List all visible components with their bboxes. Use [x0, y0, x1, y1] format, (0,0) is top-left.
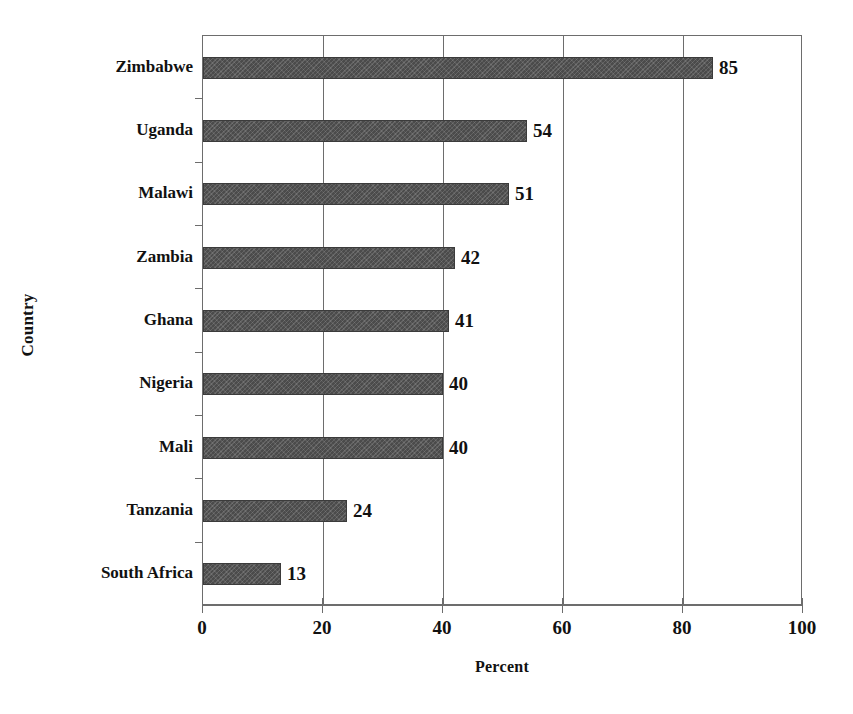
bar-value-label: 24 — [353, 500, 372, 522]
bar-zambia: 42 — [203, 247, 455, 269]
y-tick-label-south-africa: South Africa — [8, 563, 193, 583]
bar-value-label: 51 — [515, 183, 534, 205]
x-axis-tick-100 — [802, 598, 803, 613]
y-tick-label-mali: Mali — [8, 437, 193, 457]
x-tick-label-0: 0 — [197, 617, 207, 639]
bar-value-label: 41 — [455, 310, 474, 332]
bar-row: 54 — [203, 120, 801, 142]
y-tick-label-nigeria: Nigeria — [8, 373, 193, 393]
x-axis-title: Percent — [202, 658, 802, 676]
x-tick-label-80: 80 — [673, 617, 692, 639]
bar-row: 42 — [203, 247, 801, 269]
bar-south-africa: 13 — [203, 563, 281, 585]
x-tick-label-20: 20 — [313, 617, 332, 639]
y-tick-label-zimbabwe: Zimbabwe — [8, 57, 193, 77]
y-tick-label-malawi: Malawi — [8, 183, 193, 203]
bar-row: 24 — [203, 500, 801, 522]
y-tick-label-tanzania: Tanzania — [8, 500, 193, 520]
bar-row: 40 — [203, 373, 801, 395]
y-tick-label-uganda: Uganda — [8, 120, 193, 140]
bar-value-label: 54 — [533, 120, 552, 142]
x-axis-line — [202, 605, 803, 606]
bar-nigeria: 40 — [203, 373, 443, 395]
x-axis-tick-20 — [322, 598, 323, 613]
bar-row: 41 — [203, 310, 801, 332]
bar-value-label: 42 — [461, 247, 480, 269]
bar-zimbabwe: 85 — [203, 57, 713, 79]
bar-value-label: 13 — [287, 563, 306, 585]
bar-uganda: 54 — [203, 120, 527, 142]
x-tick-label-40: 40 — [433, 617, 452, 639]
x-tick-label-100: 100 — [788, 617, 817, 639]
bar-malawi: 51 — [203, 183, 509, 205]
bar-value-label: 85 — [719, 57, 738, 79]
x-axis-tick-0 — [202, 598, 203, 613]
x-axis-title-text: Percent — [475, 658, 529, 675]
bar-value-label: 40 — [449, 437, 468, 459]
bar-row: 40 — [203, 437, 801, 459]
plot-area: 855451424140402413 — [202, 35, 802, 605]
bar-ghana: 41 — [203, 310, 449, 332]
x-tick-label-60: 60 — [553, 617, 572, 639]
bar-row: 85 — [203, 57, 801, 79]
y-tick-label-ghana: Ghana — [8, 310, 193, 330]
bar-chart-figure: Country ZimbabweUgandaMalawiZambiaGhanaN… — [0, 0, 853, 714]
bar-tanzania: 24 — [203, 500, 347, 522]
x-axis-tick-60 — [562, 598, 563, 613]
x-axis-tick-80 — [682, 598, 683, 613]
bar-mali: 40 — [203, 437, 443, 459]
bar-row: 51 — [203, 183, 801, 205]
scan-artifact — [0, 0, 853, 14]
bar-row: 13 — [203, 563, 801, 585]
bar-value-label: 40 — [449, 373, 468, 395]
x-axis-tick-40 — [442, 598, 443, 613]
y-tick-label-zambia: Zambia — [8, 247, 193, 267]
